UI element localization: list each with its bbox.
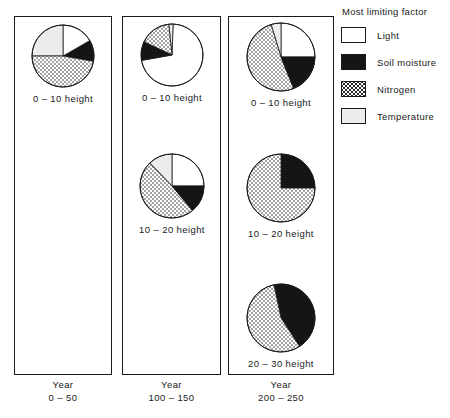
legend: Most limiting factor LightSoil moistureN… [341,6,449,132]
legend-swatch-light [341,27,366,43]
legend-swatch-soil [341,54,366,70]
pie-svg [139,22,205,88]
legend-item-temp[interactable]: Temperature [341,105,449,127]
panel-caption: Year0 – 50 [14,379,112,404]
pie-svg [30,23,96,89]
panel-caption-line2: 200 – 250 [228,392,334,405]
pie-svg [245,282,317,354]
pie-label: 10 – 20 height [138,224,206,235]
legend-rows: LightSoil moistureNitrogenTemperature [341,24,449,127]
panel-caption-line2: 100 – 150 [122,392,221,405]
pie-chart: 10 – 20 height [138,152,206,235]
legend-swatch-nitrogen [341,81,366,97]
pie-svg [138,152,206,220]
pie-label: 0 – 10 height [139,92,205,103]
pie-slice-nitrogen [32,56,94,87]
panel-caption: Year100 – 150 [122,379,221,404]
legend-title: Most limiting factor [342,6,449,17]
pie-label: 0 – 10 height [30,93,96,104]
legend-swatch-temp [341,108,366,124]
pie-svg [245,21,317,93]
legend-item-light[interactable]: Light [341,24,449,46]
panel-caption-line1: Year [14,379,112,392]
pie-svg [245,152,317,224]
panel-caption-line2: 0 – 50 [14,392,112,405]
pie-label: 10 – 20 height [245,228,317,239]
pie-chart: 0 – 10 height [139,22,205,103]
panel-caption: Year200 – 250 [228,379,334,404]
legend-label-nitrogen: Nitrogen [377,84,416,95]
pie-label: 20 – 30 height [245,358,317,369]
pie-chart: 10 – 20 height [245,152,317,239]
pie-chart: 20 – 30 height [245,282,317,369]
pie-chart: 0 – 10 height [30,23,96,104]
legend-item-soil[interactable]: Soil moisture [341,51,449,73]
legend-item-nitrogen[interactable]: Nitrogen [341,78,449,100]
legend-label-soil: Soil moisture [377,57,436,68]
panel-caption-line1: Year [122,379,221,392]
panel-caption-line1: Year [228,379,334,392]
pie-label: 0 – 10 height [245,97,317,108]
pie-chart: 0 – 10 height [245,21,317,108]
legend-label-temp: Temperature [377,111,434,122]
legend-label-light: Light [377,30,399,41]
